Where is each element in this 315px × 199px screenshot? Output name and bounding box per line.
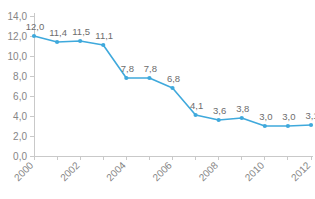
data-point-marker[interactable] — [263, 124, 267, 128]
data-point-label: 6,8 — [167, 73, 180, 84]
data-point-label: 11,1 — [95, 30, 113, 41]
data-point-marker[interactable] — [32, 34, 36, 38]
y-tick-label: 4,0 — [13, 111, 27, 122]
data-point-marker[interactable] — [170, 86, 174, 90]
data-point-label: 11,4 — [49, 27, 67, 38]
data-point-label: 7,8 — [121, 63, 134, 74]
y-tick-label: 14,0 — [8, 11, 28, 22]
data-point-marker[interactable] — [147, 76, 151, 80]
data-point-label: 11,5 — [72, 26, 90, 37]
y-tick-label: 12,0 — [8, 31, 28, 42]
data-point-marker[interactable] — [101, 43, 105, 47]
y-tick-label: 8,0 — [13, 71, 27, 82]
y-tick-label: 0,0 — [13, 151, 27, 162]
line-chart: 0,02,04,06,08,010,012,014,02000200220042… — [0, 0, 315, 199]
data-point-marker[interactable] — [309, 123, 313, 127]
data-point-marker[interactable] — [240, 116, 244, 120]
data-point-marker[interactable] — [217, 118, 221, 122]
x-tick-label: 2010 — [243, 159, 267, 183]
data-point-label: 7,8 — [144, 63, 157, 74]
data-point-marker[interactable] — [55, 40, 59, 44]
data-point-label: 12,0 — [26, 21, 45, 32]
chart-canvas: 0,02,04,06,08,010,012,014,02000200220042… — [0, 0, 315, 199]
data-point-marker[interactable] — [78, 39, 82, 43]
y-tick-label: 6,0 — [13, 91, 27, 102]
data-point-marker[interactable] — [193, 113, 197, 117]
y-tick-label: 2,0 — [13, 131, 27, 142]
x-tick-label: 2006 — [150, 159, 174, 183]
x-tick-label: 2000 — [12, 159, 36, 183]
data-point-label: 3,0 — [259, 111, 272, 122]
x-tick-label: 2004 — [104, 159, 128, 183]
data-point-marker[interactable] — [124, 76, 128, 80]
y-tick-label: 10,0 — [8, 51, 28, 62]
data-point-label: 3,8 — [236, 103, 249, 114]
x-tick-label: 2002 — [58, 159, 82, 183]
data-point-marker[interactable] — [286, 124, 290, 128]
data-point-label: 4,1 — [190, 100, 203, 111]
x-tick-label: 2012 — [289, 159, 313, 183]
data-point-label: 3,6 — [213, 105, 226, 116]
x-tick-label: 2008 — [197, 159, 221, 183]
data-point-label: 3,0 — [282, 111, 295, 122]
data-point-label: 3,1 — [305, 110, 315, 121]
